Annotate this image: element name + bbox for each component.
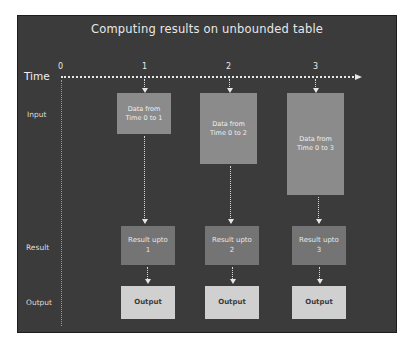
result-box-3: Result upto3	[292, 226, 346, 265]
connector-input-to-result-3	[318, 197, 319, 220]
tick-0: 0	[58, 62, 63, 71]
arrow-down-icon	[230, 279, 236, 284]
time-axis-label: Time	[24, 70, 50, 82]
row-label-output: Output	[26, 298, 52, 307]
arrow-down-icon	[317, 279, 323, 284]
input-box-2: Data fromTime 0 to 2	[200, 93, 257, 164]
connector-input-to-result-1	[144, 136, 145, 220]
result-box-1-line2: 1	[128, 246, 168, 255]
tick-3: 3	[313, 62, 318, 71]
arrow-down-icon	[316, 219, 322, 224]
input-box-2-line2: Time 0 to 2	[210, 129, 247, 138]
result-box-2-line2: 2	[212, 246, 252, 255]
tick-1: 1	[142, 62, 147, 71]
connector-input-to-result-2	[230, 166, 231, 220]
input-box-1-line2: Time 0 to 1	[126, 114, 163, 123]
row-label-input: Input	[27, 110, 46, 119]
connector-result-to-output-2	[232, 267, 233, 279]
result-box-1: Result upto1	[121, 226, 175, 265]
input-box-3: Data fromTime 0 to 3	[287, 93, 344, 195]
row-separator-line	[61, 80, 62, 326]
input-box-1: Data fromTime 0 to 1	[117, 93, 171, 134]
time-axis-line	[61, 76, 357, 78]
input-box-3-line2: Time 0 to 3	[297, 144, 334, 153]
tick-2: 2	[226, 62, 231, 71]
output-box-3: Output	[292, 286, 346, 319]
result-box-3-line1: Result upto	[299, 236, 339, 245]
input-box-1-line1: Data from	[126, 105, 163, 114]
diagram-title: Computing results on unbounded table	[17, 22, 397, 36]
input-box-2-line1: Data from	[210, 120, 247, 129]
result-box-2-line1: Result upto	[212, 236, 252, 245]
arrow-down-icon	[145, 279, 151, 284]
input-box-3-line1: Data from	[297, 135, 334, 144]
arrow-down-icon	[142, 219, 148, 224]
result-box-1-line1: Result upto	[128, 236, 168, 245]
output-box-2: Output	[205, 286, 259, 319]
time-axis-arrow-icon	[355, 74, 362, 80]
row-label-result: Result	[26, 243, 49, 252]
arrow-down-icon	[228, 219, 234, 224]
output-box-1: Output	[121, 286, 175, 319]
result-box-2: Result upto2	[205, 226, 259, 265]
result-box-3-line2: 3	[299, 246, 339, 255]
connector-result-to-output-3	[319, 267, 320, 279]
connector-result-to-output-1	[147, 267, 148, 279]
